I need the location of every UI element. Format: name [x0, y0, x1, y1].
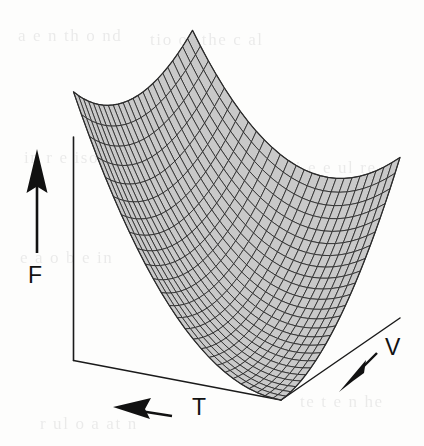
t-axis-arrow	[113, 398, 172, 419]
f-axis-label: F	[28, 264, 42, 287]
surface-mesh	[74, 30, 401, 400]
v-axis-arrow	[339, 353, 377, 392]
t-axis-label: T	[192, 396, 206, 419]
figure-3d-surface-plot: a e n th o nd tio of the c al in r e iso…	[0, 0, 424, 446]
plot-canvas	[0, 0, 424, 446]
v-axis-label: V	[385, 336, 400, 359]
f-axis-arrow	[27, 149, 48, 253]
